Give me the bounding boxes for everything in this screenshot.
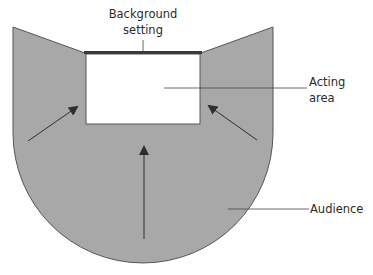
- background-setting-line1: Background: [100, 6, 186, 22]
- audience-label: Audience: [310, 201, 363, 217]
- stage-diagram: [0, 0, 373, 275]
- acting-area-line2: area: [309, 90, 345, 106]
- background-setting-line2: setting: [100, 22, 186, 38]
- acting-area: [86, 54, 200, 124]
- acting-area-line1: Acting: [309, 74, 345, 90]
- acting-area-label: Acting area: [309, 74, 345, 106]
- background-setting-label: Background setting: [100, 6, 186, 38]
